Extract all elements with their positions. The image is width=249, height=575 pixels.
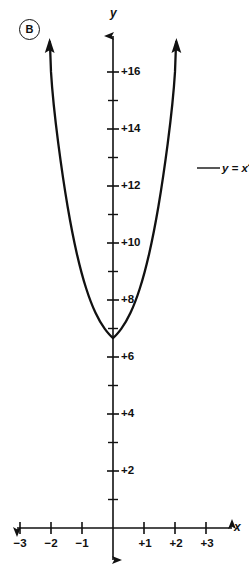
x-tick-label-plus-3: +3 — [200, 538, 213, 550]
y-tick-label-16: +16 — [121, 66, 141, 78]
y-tick-label-8: +8 — [121, 294, 134, 306]
x-tick-label-plus-2: +2 — [169, 538, 182, 550]
x-tick-label-minus-1: −1 — [75, 538, 88, 550]
plot-area — [0, 0, 249, 575]
y-tick-label-12: +12 — [121, 180, 141, 192]
y-tick-label-6: +6 — [121, 351, 134, 363]
x-tick-label-minus-3: −3 — [13, 538, 26, 550]
y-tick-label-2: +2 — [121, 465, 134, 477]
y-tick-label-14: +14 — [121, 123, 141, 135]
x-tick-label-plus-1: +1 — [138, 538, 151, 550]
y-tick-label-4: +4 — [121, 408, 134, 420]
y-tick-label-10: +10 — [121, 237, 141, 249]
x-tick-label-minus-2: −2 — [44, 538, 57, 550]
figure-panel-b: B y x y = x4 — [0, 0, 249, 575]
